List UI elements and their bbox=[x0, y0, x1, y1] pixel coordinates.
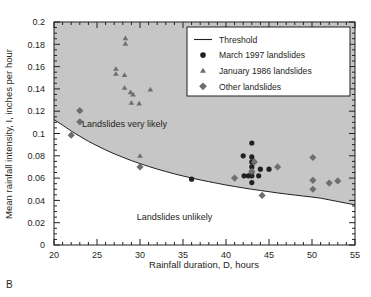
panel-label: B bbox=[6, 279, 13, 290]
data-point bbox=[249, 154, 254, 159]
data-point bbox=[249, 140, 254, 145]
x-tick-label: 25 bbox=[92, 250, 102, 260]
figure-panel-b: 2025303540455055 00.020.040.060.080.10.1… bbox=[0, 0, 371, 297]
y-tick-label: 0.14 bbox=[27, 84, 45, 94]
x-axis-title: Rainfall duration, D, hours bbox=[149, 259, 259, 270]
y-tick-label: 0.02 bbox=[27, 218, 45, 228]
x-tick-label: 50 bbox=[307, 250, 317, 260]
y-tick-label: 0.06 bbox=[27, 173, 45, 183]
data-point bbox=[258, 167, 263, 172]
y-tick-label: 0.1 bbox=[32, 129, 45, 139]
x-tick-label: 30 bbox=[135, 250, 145, 260]
x-tick-label: 55 bbox=[350, 250, 360, 260]
data-point bbox=[266, 167, 271, 172]
y-tick-label: 0.04 bbox=[27, 196, 45, 206]
data-point bbox=[241, 153, 246, 158]
y-tick-label: 0.2 bbox=[32, 17, 45, 27]
plot-annotation: Landslides unlikely bbox=[137, 212, 213, 222]
data-point bbox=[256, 173, 261, 178]
y-tick-label: 0.12 bbox=[27, 106, 45, 116]
y-tick-label: 0.08 bbox=[27, 151, 45, 161]
legend-label: January 1986 landslides bbox=[219, 66, 312, 76]
chart-legend: ThresholdMarch 1997 landslidesJanuary 19… bbox=[187, 27, 350, 96]
legend-label: Threshold bbox=[219, 35, 257, 45]
y-axis-title: Mean rainfall intensity, I, inches per h… bbox=[3, 49, 14, 219]
data-point bbox=[249, 180, 254, 185]
x-tick-label: 45 bbox=[264, 250, 274, 260]
legend-label: March 1997 landslides bbox=[219, 50, 305, 60]
plot-annotation: Landslides very likely bbox=[82, 119, 168, 129]
x-tick-label: 20 bbox=[49, 250, 59, 260]
y-tick-label: 0.16 bbox=[27, 62, 45, 72]
legend-marker-circle bbox=[200, 52, 206, 58]
y-tick-label: 0.18 bbox=[27, 40, 45, 50]
legend-label: Other landslides bbox=[219, 82, 281, 92]
data-point bbox=[189, 177, 194, 182]
rainfall-threshold-scatter-chart: 2025303540455055 00.020.040.060.080.10.1… bbox=[0, 0, 371, 297]
y-tick-label: 0 bbox=[40, 240, 45, 250]
